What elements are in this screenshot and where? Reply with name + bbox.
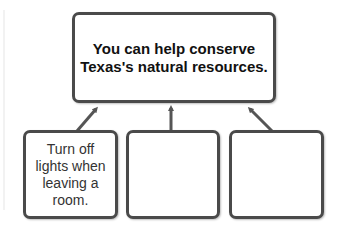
main-idea-box: You can help conserve Texas's natural re… <box>72 12 276 103</box>
main-idea-line-2: Texas's natural resources. <box>79 58 269 76</box>
scan-artifact <box>3 10 5 210</box>
main-idea-line-1: You can help conserve <box>79 40 269 58</box>
detail-box-3[interactable] <box>229 130 324 219</box>
detail-box-2[interactable] <box>126 130 220 219</box>
arrow-up-icon <box>250 109 272 131</box>
detail-text-1: Turn off lights when leaving a room. <box>31 141 111 209</box>
detail-box-1: Turn off lights when leaving a room. <box>23 130 118 219</box>
main-idea-text: You can help conserve Texas's natural re… <box>79 40 269 76</box>
arrow-up-icon <box>77 109 96 131</box>
